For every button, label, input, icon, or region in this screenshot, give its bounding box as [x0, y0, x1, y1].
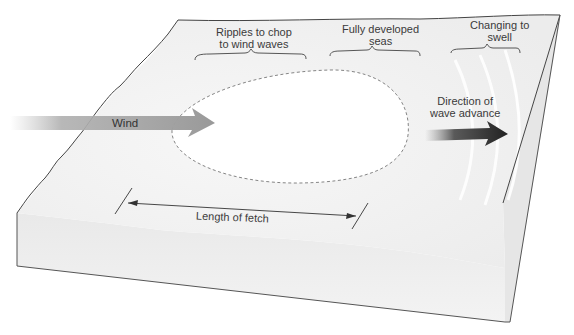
stage-label-line: Fully developed — [342, 23, 419, 35]
wind-label: Wind — [112, 117, 138, 129]
direction-label: Direction of wave advance — [430, 95, 500, 119]
direction-label-line: Direction of — [430, 95, 500, 107]
stage-label-line: Ripples to chop — [216, 26, 292, 38]
stage-label-fully-developed: Fully developed seas — [342, 23, 419, 47]
direction-label-line: wave advance — [430, 107, 500, 119]
stage-label-line: swell — [470, 31, 529, 43]
stage-label-line: to wind waves — [216, 38, 292, 50]
stage-label-changing-to-swell: Changing to swell — [470, 19, 529, 43]
stage-label-line: seas — [342, 35, 419, 47]
stage-label-ripples: Ripples to chop to wind waves — [216, 26, 292, 50]
wave-fetch-diagram — [0, 0, 574, 335]
stage-label-line: Changing to — [470, 19, 529, 31]
